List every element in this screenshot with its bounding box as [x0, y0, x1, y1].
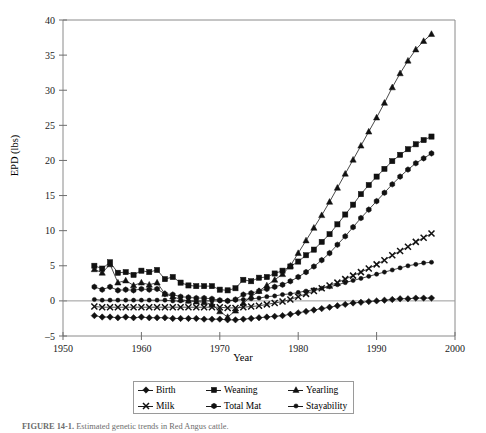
square-marker	[319, 239, 324, 244]
diamond-marker	[185, 315, 191, 321]
legend-item-yearling[interactable]: Yearling	[288, 385, 359, 395]
circle-marker	[257, 296, 261, 300]
legend-label: Total Mat	[224, 401, 261, 411]
legend-item-birth[interactable]: Birth	[138, 385, 206, 395]
circle-marker	[249, 297, 253, 301]
diamond-marker	[319, 305, 325, 311]
legend-line-swatch	[288, 406, 303, 407]
cross-marker	[287, 296, 293, 302]
diamond-marker	[209, 316, 215, 322]
cross-marker	[358, 269, 364, 275]
square-marker	[115, 270, 120, 275]
square-marker	[405, 147, 410, 152]
hexagon-marker	[398, 174, 403, 180]
hexagon-marker	[100, 287, 105, 293]
circle-marker	[210, 299, 214, 303]
hexagon-marker	[366, 207, 371, 213]
series-stayability	[92, 260, 433, 303]
legend-line-swatch	[206, 390, 221, 391]
diamond-marker	[287, 311, 293, 317]
legend-item-milk[interactable]: Milk	[138, 401, 206, 411]
square-marker	[366, 182, 371, 187]
circle-marker	[147, 298, 151, 302]
square-marker	[147, 269, 152, 274]
diamond-marker	[358, 299, 364, 305]
triangle-marker	[374, 114, 380, 120]
circle-marker	[414, 262, 418, 266]
diamond-marker	[366, 298, 372, 304]
diamond-marker	[311, 307, 317, 313]
hexagon-marker	[241, 292, 246, 298]
circle-marker	[304, 289, 308, 293]
circle-marker	[273, 294, 277, 298]
tick-label-group: –505101520253035401950196019701980199020…	[44, 15, 465, 355]
triangle-marker	[272, 277, 278, 283]
circle-marker	[327, 285, 331, 289]
series-line	[94, 233, 431, 307]
square-marker	[225, 288, 230, 293]
cross-marker	[421, 235, 427, 241]
diamond-marker	[91, 312, 97, 318]
diamond-marker	[115, 315, 121, 321]
circle-marker	[124, 298, 128, 302]
circle-marker	[390, 268, 394, 272]
legend-item-total-mat[interactable]: Total Mat	[206, 401, 288, 411]
cross-marker	[143, 403, 149, 409]
legend-label: Yearling	[306, 385, 338, 395]
diamond-marker	[130, 315, 136, 321]
hexagon-marker	[335, 242, 340, 248]
square-marker	[272, 271, 277, 276]
y-tick-label: 40	[45, 15, 55, 26]
legend-diamond-marker	[140, 385, 151, 396]
square-marker	[303, 253, 308, 258]
figure-caption: FIGURE 14-1. Estimated genetic trends in…	[22, 421, 472, 432]
diamond-marker	[264, 314, 270, 320]
square-marker	[202, 284, 207, 289]
diamond-marker	[123, 314, 129, 320]
circle-marker	[320, 286, 324, 290]
cross-marker	[374, 261, 380, 267]
square-marker	[209, 284, 214, 289]
circle-marker	[312, 288, 316, 292]
diamond-marker	[256, 315, 262, 321]
triangle-marker	[123, 277, 129, 283]
square-marker	[170, 274, 175, 279]
diamond-marker	[342, 301, 348, 307]
triangle-marker	[366, 128, 372, 134]
circle-marker	[382, 270, 386, 274]
circle-marker	[280, 292, 284, 296]
hexagon-marker	[115, 288, 120, 294]
square-marker	[374, 174, 379, 179]
legend-item-weaning[interactable]: Weaning	[206, 385, 288, 395]
square-marker	[249, 279, 254, 284]
circle-marker	[194, 299, 198, 303]
y-tick-label: 10	[45, 225, 55, 236]
square-marker	[194, 284, 199, 289]
y-tick-label: 20	[45, 155, 55, 166]
diamond-marker	[217, 316, 223, 322]
circle-marker	[288, 292, 292, 296]
legend-line-swatch	[138, 390, 153, 391]
diamond-marker	[177, 315, 183, 321]
legend-hexagon-marker	[208, 401, 219, 412]
circle-marker	[406, 264, 410, 268]
hexagon-marker	[131, 288, 136, 294]
triangle-marker	[292, 387, 298, 393]
square-marker	[211, 387, 216, 392]
hexagon-marker	[155, 286, 160, 292]
hexagon-marker	[280, 282, 285, 288]
cross-marker	[350, 273, 356, 279]
diamond-marker	[271, 313, 277, 319]
square-marker	[421, 137, 426, 142]
diamond-marker	[99, 314, 105, 320]
triangle-marker	[334, 185, 340, 191]
circle-marker	[92, 297, 96, 301]
square-marker	[296, 259, 301, 264]
hexagon-marker	[327, 250, 332, 256]
hexagon-marker	[351, 224, 356, 230]
chart-canvas: –505101520253035401950196019701980199020…	[0, 0, 486, 433]
triangle-marker	[358, 142, 364, 148]
cross-marker	[413, 239, 419, 245]
legend-item-stayability[interactable]: Stayability	[288, 401, 359, 411]
hexagon-marker	[147, 287, 152, 293]
